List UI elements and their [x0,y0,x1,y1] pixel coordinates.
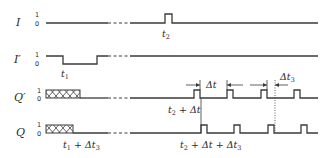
t2-plus-dt-plus-dt3-label: t2 + Δt + Δt3 [180,139,241,152]
signal-i-label: I [15,16,21,29]
signal-q-label: Q [16,126,25,139]
timing-diagram: I 1 0 t2 I′ 1 0 t1 Q′ 1 0 t2 + Δt Δt [0,0,329,158]
t1-label: t1 [61,68,69,81]
delta-t3-label: Δt3 [279,71,295,84]
arrowhead-icon [227,83,231,87]
signal-q-prime-level-high: 1 [37,87,41,95]
signal-q-undefined-region [46,125,73,133]
signal-q-prime-waveform-b [130,90,318,98]
signal-q-prime-level-low: 0 [37,95,41,103]
signal-q-level-high: 1 [37,121,41,129]
signal-q-waveform-b [130,125,318,133]
signal-i-level-high: 1 [35,11,39,19]
delta-t-label: Δt [205,79,217,90]
t1-plus-dt3-label: t1 + Δt3 [63,139,100,152]
arrowhead-icon [196,83,200,87]
signal-i-prime-level-low: 0 [35,60,39,68]
signal-i-prime-level-high: 1 [35,51,39,59]
signal-i-prime-waveform-a [46,56,108,64]
signal-i-prime-label: I′ [13,53,21,66]
arrowhead-icon [263,83,267,87]
signal-i-row: I 1 0 t2 [15,11,318,41]
t2-label: t2 [162,28,170,41]
signal-q-prime-undefined-region [46,90,80,98]
signal-i-waveform-b [130,14,318,23]
signal-i-level-low: 0 [35,20,39,28]
signal-q-level-low: 0 [37,130,41,138]
arrowhead-icon [275,83,279,87]
signal-q-prime-label: Q′ [14,91,26,104]
signal-q-prime-row: Q′ 1 0 t2 + Δt Δt Δt3 [14,71,318,117]
signal-q-row: Q 1 0 t1 + Δt3 t2 + Δt + Δt3 [16,121,318,152]
signal-i-prime-row: I′ 1 0 t1 [13,51,318,81]
t2-plus-dt-label: t2 + Δt [168,104,201,117]
